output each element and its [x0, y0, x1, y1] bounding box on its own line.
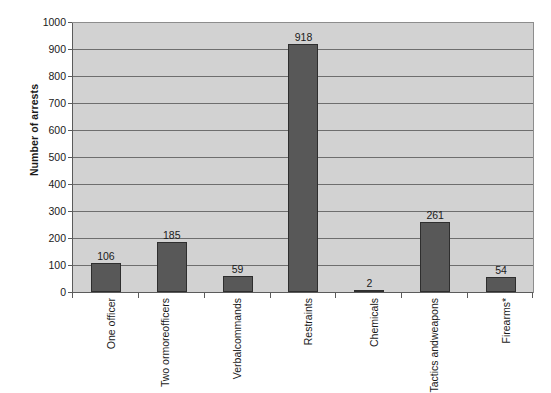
bar-slot: 185	[139, 22, 205, 292]
x-axis-label-line: Two or	[159, 356, 171, 388]
plot-frame-right	[533, 22, 534, 293]
bar-slot: 2	[336, 22, 402, 292]
y-axis-tick-label: 500	[26, 152, 66, 162]
x-axis-category-label: Verbalcommands	[231, 298, 243, 379]
bar[interactable]	[420, 222, 450, 292]
y-axis-tick-label: 600	[26, 125, 66, 135]
x-axis-label-wrap: Restraints	[270, 293, 336, 373]
bar[interactable]	[354, 290, 384, 292]
bar-slot: 261	[402, 22, 468, 292]
bar-slot: 59	[205, 22, 271, 292]
bar-slot: 106	[73, 22, 139, 292]
bar-value-label: 2	[366, 278, 372, 289]
bar-value-label: 59	[232, 264, 244, 275]
bar[interactable]	[91, 263, 121, 292]
x-axis-label-wrap: Firearms*	[467, 293, 533, 373]
y-axis-tick-label: 100	[26, 260, 66, 270]
y-axis-tick-label: 400	[26, 179, 66, 189]
x-axis-label-line: Tactics and	[428, 340, 440, 393]
bar[interactable]	[288, 44, 318, 292]
y-axis-tick-label: 300	[26, 206, 66, 216]
x-axis-label-wrap: Two ormoreofficers	[138, 293, 204, 373]
plot-area: 10618559918226154	[72, 22, 534, 293]
x-axis-label-line: Firearms*	[500, 298, 512, 344]
y-axis-tick-label: 900	[26, 44, 66, 54]
y-axis-tick-label: 1000	[26, 17, 66, 27]
bar[interactable]	[223, 276, 253, 292]
x-axis-label-line: officers	[159, 298, 171, 332]
bar[interactable]	[486, 277, 516, 292]
x-axis-label-line: One officer	[105, 298, 117, 349]
x-axis-label-wrap: One officer	[72, 293, 138, 373]
x-axis-category-label: One officer	[105, 298, 117, 349]
bar-value-label: 918	[295, 32, 313, 43]
x-axis-category-labels: One officerTwo ormoreofficersVerbalcomma…	[72, 293, 533, 373]
y-axis-tick-label: 0	[26, 287, 66, 297]
x-axis-label-line: Verbal	[231, 349, 243, 379]
y-axis-tick-label: 700	[26, 98, 66, 108]
x-axis-category-label: Tactics andweapons	[428, 298, 440, 393]
x-axis-category-label: Two ormoreofficers	[159, 298, 171, 387]
plot-frame-top	[72, 22, 534, 23]
x-axis-label-wrap: Verbalcommands	[204, 293, 270, 373]
y-axis-tick-label: 800	[26, 71, 66, 81]
x-axis-category-label: Firearms*	[500, 298, 512, 344]
bar-slot: 54	[468, 22, 534, 292]
x-axis-label-line: commands	[231, 298, 243, 349]
bar-value-label: 185	[163, 230, 181, 241]
y-axis-tick-labels: 01002003004005006007008009001000	[22, 22, 66, 292]
x-axis-label-line: Restraints	[302, 298, 314, 345]
x-axis-label-line: more	[159, 332, 171, 356]
y-axis-tick-label: 200	[26, 233, 66, 243]
x-axis-label-wrap: Tactics andweapons	[401, 293, 467, 373]
bar-value-label: 106	[97, 251, 115, 262]
bar-slot: 918	[271, 22, 337, 292]
x-axis-label-wrap: Chemicals	[335, 293, 401, 373]
bar-value-label: 261	[426, 210, 444, 221]
x-axis-category-label: Restraints	[302, 298, 314, 345]
x-axis-label-line: Chemicals	[368, 298, 380, 347]
x-axis-category-label: Chemicals	[368, 298, 380, 347]
x-axis-label-line: weapons	[428, 298, 440, 340]
bar[interactable]	[157, 242, 187, 292]
bar-value-label: 54	[495, 265, 507, 276]
